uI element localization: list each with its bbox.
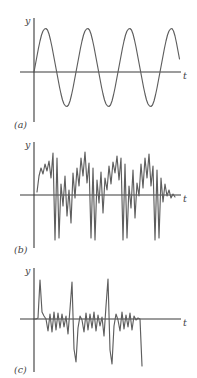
panel-a: y t (a) (0, 0, 197, 128)
panel-b-y-label: y (24, 139, 31, 150)
panel-c-tag: (c) (14, 364, 27, 375)
panel-a-waveform (34, 29, 180, 107)
panel-b-waveform (37, 152, 175, 240)
panel-c: y t (c) (0, 254, 197, 378)
panel-b-x-label: t (183, 193, 187, 204)
panel-c-plot: y t (0, 254, 197, 378)
panel-b: y t (b) (0, 128, 197, 254)
panel-c-x-label: t (183, 317, 187, 328)
panel-a-y-label: y (24, 15, 31, 26)
panel-c-waveform (34, 279, 142, 366)
waveform-figure: y t (a) y t (b) y t (0, 0, 197, 378)
panel-c-tag-box: (c) (14, 358, 27, 377)
panel-a-plot: y t (0, 0, 197, 128)
panel-a-x-label: t (183, 70, 187, 81)
panel-c-y-label: y (24, 265, 31, 276)
panel-b-plot: y t (0, 128, 197, 254)
